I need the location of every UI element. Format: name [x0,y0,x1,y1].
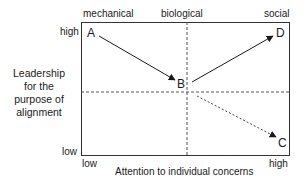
y-axis-title-line: for the [0,80,78,93]
y-low-label: low [62,146,77,157]
arrow-b-to-c [197,96,276,137]
point-a-label: A [87,27,95,39]
x-low-label: low [82,158,97,169]
quadrant-frame [82,23,290,156]
x-high-label: high [269,158,288,169]
y-axis-title-line: Leadership [0,67,78,80]
top-label-biological: biological [161,8,203,19]
y-axis-title-line: purpose of [0,93,78,106]
top-label-mechanical: mechanical [83,8,134,19]
point-d-label: D [276,27,285,39]
x-axis-title: Attention to individual concerns [115,166,253,177]
arrow-b-to-d [192,36,273,82]
arrow-a-to-b [99,36,175,80]
y-high-label: high [60,26,79,37]
y-axis-title-line: alignment [0,106,78,119]
point-c-label: C [278,137,287,149]
top-label-social: social [264,8,290,19]
point-b-label: B [177,78,185,90]
y-axis-title: Leadership for the purpose of alignment [0,67,78,119]
